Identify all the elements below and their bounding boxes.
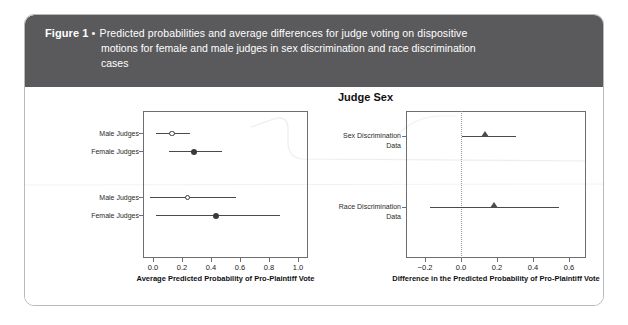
left-ytick-1	[139, 133, 143, 134]
left-xticklabel-5: 1.0	[283, 263, 313, 272]
right-zero-reference-line	[461, 111, 462, 258]
left-ylabel-2: Female Judges	[63, 147, 139, 157]
right-xticklabel-3: 0.4	[518, 263, 548, 272]
right-xtick-4	[569, 258, 570, 262]
left-ytick-2	[139, 151, 143, 152]
left-xticklabel-0: 0.0	[138, 263, 168, 272]
figure-number: Figure 1	[45, 27, 89, 39]
figure-caption-line-3: cases	[45, 56, 583, 71]
right-ytick-2	[402, 207, 406, 208]
right-point-sex	[481, 131, 489, 137]
right-xticklabel-1: 0.0	[446, 263, 476, 272]
right-xticklabel-2: 0.2	[482, 263, 512, 272]
left-xtick-0	[153, 258, 154, 262]
left-xtick-3	[240, 258, 241, 262]
left-xticklabel-2: 0.4	[196, 263, 226, 272]
left-ylabel-4: Female Judges	[63, 211, 139, 221]
left-xticklabel-4: 0.8	[254, 263, 284, 272]
left-xticklabel-1: 0.2	[167, 263, 197, 272]
right-xaxis-title: Difference in the Predicted Probability …	[350, 274, 604, 283]
figure-caption-line-2: motions for female and male judges in se…	[45, 41, 583, 56]
right-xtick-0	[425, 258, 426, 262]
left-point-female-sex	[191, 149, 197, 155]
left-ytick-3	[139, 197, 143, 198]
plot-area: Judge Sex Male Judges Female Judges Male…	[25, 87, 604, 306]
figure-header: Figure 1•Predicted probabilities and ave…	[25, 15, 604, 87]
right-xticklabel-0: −0.2	[410, 263, 440, 272]
left-ylabel-1: Male Judges	[63, 129, 139, 139]
left-xtick-2	[211, 258, 212, 262]
right-ylabel-1: Sex Discrimination Data	[313, 131, 401, 150]
right-point-race	[490, 202, 498, 208]
left-ylabel-3: Male Judges	[63, 193, 139, 203]
right-ylabel-2: Race Discrimination Data	[313, 202, 401, 221]
bullet-icon: •	[89, 27, 100, 39]
right-ci-sex	[462, 136, 516, 137]
left-point-male-sex	[169, 131, 174, 136]
figure-caption-line-1: Predicted probabilities and average diff…	[100, 27, 468, 39]
figure-caption: Figure 1•Predicted probabilities and ave…	[45, 26, 583, 41]
left-ytick-4	[139, 215, 143, 216]
left-xtick-5	[298, 258, 299, 262]
screenshot-root: Figure 1•Predicted probabilities and ave…	[0, 0, 628, 325]
right-xtick-1	[461, 258, 462, 262]
right-xtick-3	[533, 258, 534, 262]
right-plot-frame	[406, 111, 586, 258]
panel-title-judge-sex: Judge Sex	[338, 91, 393, 103]
right-xtick-2	[497, 258, 498, 262]
right-ytick-1	[402, 136, 406, 137]
left-xtick-4	[269, 258, 270, 262]
right-xticklabel-4: 0.6	[554, 263, 584, 272]
left-xtick-1	[182, 258, 183, 262]
left-ci-male-race	[150, 197, 236, 198]
left-point-female-race	[213, 213, 219, 219]
left-xticklabel-3: 0.6	[225, 263, 255, 272]
figure-card: Figure 1•Predicted probabilities and ave…	[24, 14, 604, 306]
left-xaxis-title: Average Predicted Probability of Pro-Pla…	[85, 274, 366, 283]
